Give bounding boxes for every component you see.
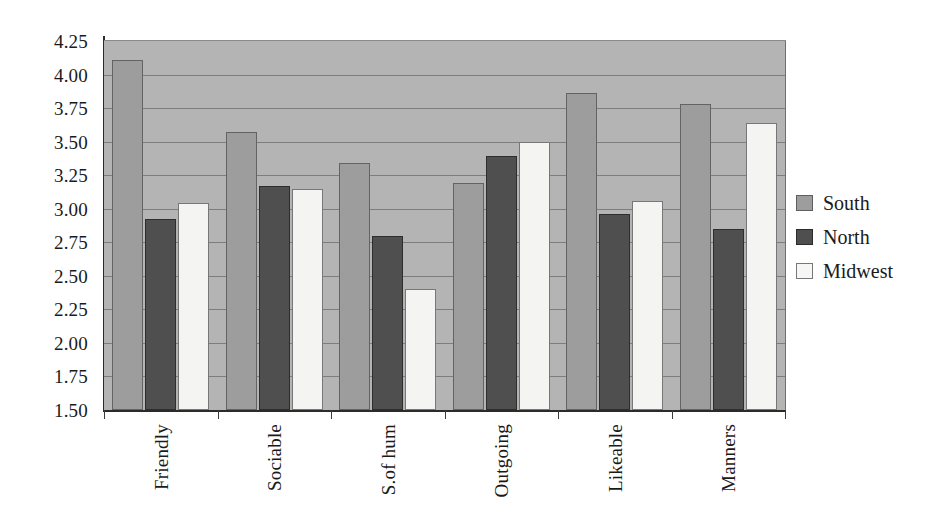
plot-border-right <box>785 41 786 411</box>
y-tick-label: 3.00 <box>54 199 88 218</box>
bar-north-likeable <box>599 214 630 410</box>
y-tick-label: 4.25 <box>54 32 88 51</box>
bar-south-friendly <box>112 60 143 410</box>
bars-layer <box>104 41 785 410</box>
x-axis-label-likeable: Likeable <box>606 424 625 492</box>
legend: SouthNorthMidwest <box>796 186 893 288</box>
bar-north-sociable <box>259 186 290 410</box>
y-tick-label: 2.00 <box>54 333 88 352</box>
legend-item-north[interactable]: North <box>796 220 893 254</box>
y-tick-label: 4.00 <box>54 65 88 84</box>
legend-swatch-south-icon <box>796 195 813 211</box>
y-tick-label: 3.25 <box>54 166 88 185</box>
bar-group-sociable <box>218 41 332 410</box>
bar-north-friendly <box>145 219 176 410</box>
x-axis-label-manners: Manners <box>719 424 738 492</box>
y-tick-label: 3.75 <box>54 99 88 118</box>
y-tick-label: 2.25 <box>54 300 88 319</box>
bar-south-manners <box>680 104 711 410</box>
bar-group-friendly <box>104 41 218 410</box>
bar-midwest-likeable <box>632 201 663 410</box>
x-tick-mark <box>785 410 786 419</box>
x-tick-mark <box>331 410 332 419</box>
legend-label: North <box>823 227 870 247</box>
bar-south-outgoing <box>453 183 484 410</box>
legend-item-south[interactable]: South <box>796 186 893 220</box>
bar-south-likeable <box>566 93 597 410</box>
bar-group-s-of-hum <box>331 41 445 410</box>
y-tick-label: 1.50 <box>54 401 88 420</box>
legend-label: South <box>823 193 870 213</box>
y-tick-label: 2.75 <box>54 233 88 252</box>
bar-group-outgoing <box>445 41 559 410</box>
y-axis: 4.254.003.753.503.253.002.752.502.252.00… <box>28 26 96 422</box>
x-axis-label-outgoing: Outgoing <box>492 424 511 497</box>
bar-group-likeable <box>558 41 672 410</box>
bar-chart: 4.254.003.753.503.253.002.752.502.252.00… <box>0 0 948 523</box>
bar-midwest-outgoing <box>519 142 550 410</box>
bar-north-outgoing <box>486 156 517 410</box>
bar-midwest-s-of-hum <box>405 289 436 410</box>
bar-north-s-of-hum <box>372 236 403 410</box>
legend-item-midwest[interactable]: Midwest <box>796 254 893 288</box>
legend-swatch-midwest-icon <box>796 263 813 279</box>
bar-south-s-of-hum <box>339 163 370 410</box>
y-tick-label: 1.75 <box>54 367 88 386</box>
bar-south-sociable <box>226 132 257 410</box>
x-axis-label-friendly: Friendly <box>152 424 171 490</box>
x-tick-mark <box>445 410 446 419</box>
x-axis-label-sociable: Sociable <box>265 424 284 491</box>
bar-midwest-manners <box>746 123 777 410</box>
legend-swatch-north-icon <box>796 229 813 245</box>
bar-midwest-sociable <box>292 189 323 410</box>
plot-area <box>104 41 785 410</box>
bar-midwest-friendly <box>178 203 209 410</box>
x-axis-label-s-of-hum: S.of hum <box>379 424 398 495</box>
bar-group-manners <box>672 41 786 410</box>
y-tick-label: 3.50 <box>54 132 88 151</box>
legend-label: Midwest <box>823 261 893 281</box>
x-tick-mark <box>104 410 105 419</box>
y-tick-label: 2.50 <box>54 266 88 285</box>
x-tick-mark <box>218 410 219 419</box>
bar-north-manners <box>713 229 744 410</box>
x-tick-mark <box>558 410 559 419</box>
x-tick-mark <box>672 410 673 419</box>
